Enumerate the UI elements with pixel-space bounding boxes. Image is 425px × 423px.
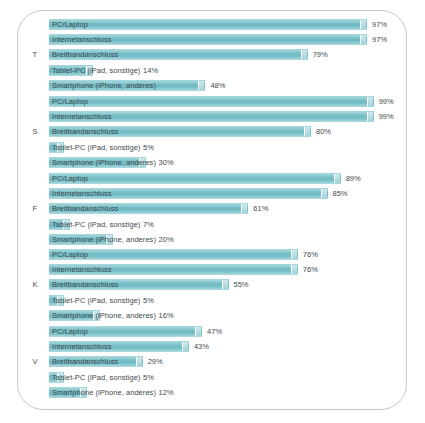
bar-value-label: 5% bbox=[143, 294, 154, 307]
bar-row: Smartphone (iPhone, anderes)12% bbox=[48, 386, 425, 399]
bar-category-label: Smartphone (iPhone, anderes) bbox=[52, 156, 156, 169]
bar-value-label: 61% bbox=[253, 202, 268, 215]
bar-category-label: Breitbandanschluss bbox=[52, 48, 118, 61]
bar-value-label: 79% bbox=[313, 48, 328, 61]
bar-value-label: 99% bbox=[379, 110, 394, 123]
bar-row: Tablet-PC (iPad, sonstige)5% bbox=[48, 294, 425, 307]
bar-value-label: 20% bbox=[159, 233, 174, 246]
bar-category-label: PC/Laptop bbox=[52, 172, 88, 185]
bar-end-cap bbox=[195, 327, 201, 336]
group-axis-label: S bbox=[28, 125, 42, 138]
bar-category-label: PC/Laptop bbox=[52, 248, 88, 261]
bar-row: Internetanschluss76% bbox=[48, 263, 425, 276]
group-axis-label: K bbox=[28, 278, 42, 291]
bar-category-label: Breitbandanschluss bbox=[52, 278, 118, 291]
bar-row: Smartphone (iPhone, anderes)48% bbox=[48, 79, 425, 92]
bar-category-label: Tablet-PC (iPad, sonstige) bbox=[52, 371, 140, 384]
bar-category-label: Internetanschluss bbox=[52, 33, 112, 46]
bar-value-label: 12% bbox=[159, 386, 174, 399]
bar-value-label: 76% bbox=[303, 263, 318, 276]
bar-category-label: PC/Laptop bbox=[52, 95, 88, 108]
bar-value-label: 43% bbox=[194, 340, 209, 353]
bar-value-label: 89% bbox=[346, 172, 361, 185]
bar-row: Internetanschluss85% bbox=[48, 187, 425, 200]
bar-row: Smartphone (iPhone, anderes)20% bbox=[48, 233, 425, 246]
bar-category-label: Internetanschluss bbox=[52, 110, 112, 123]
bar-value-label: 97% bbox=[372, 18, 387, 31]
bar-end-cap bbox=[334, 174, 340, 183]
bar-row: Tablet-PC (iPad, sonstige)5% bbox=[48, 141, 425, 154]
bar-value-label: 47% bbox=[207, 325, 222, 338]
bar-category-label: Breitbandanschluss bbox=[52, 202, 118, 215]
bar bbox=[48, 172, 342, 185]
bar-value-label: 80% bbox=[316, 125, 331, 138]
bar-row: Internetanschluss43% bbox=[48, 340, 425, 353]
bar-end-cap bbox=[241, 204, 247, 213]
bar-end-cap bbox=[291, 250, 297, 259]
bar-category-label: Tablet-PC (iPad, sonstige) bbox=[52, 141, 140, 154]
bar-category-label: Internetanschluss bbox=[52, 340, 112, 353]
bar-category-label: Internetanschluss bbox=[52, 263, 112, 276]
group-axis-label: F bbox=[28, 202, 42, 215]
bar-end-cap bbox=[198, 81, 204, 90]
bar-row: Breitbandanschluss80% bbox=[48, 125, 425, 138]
bar-row: Breitbandanschluss29% bbox=[48, 355, 425, 368]
bar-category-label: Smartphone (iPhone, anderes) bbox=[52, 386, 156, 399]
bar-value-label: 14% bbox=[143, 64, 158, 77]
bar-end-cap bbox=[136, 357, 142, 366]
bar-chart-plot-area: TPC/Laptop97%Internetanschluss97%Breitba… bbox=[0, 0, 425, 423]
bar-category-label: Tablet-PC (iPad, sonstige) bbox=[52, 294, 140, 307]
bar bbox=[48, 95, 375, 108]
bar-end-cap bbox=[301, 50, 307, 59]
bar-end-cap bbox=[182, 342, 188, 351]
bar-end-cap bbox=[321, 189, 327, 198]
bar-value-label: 5% bbox=[143, 141, 154, 154]
bar-category-label: Smartphone (iPhone, anderes) bbox=[52, 309, 156, 322]
bar-end-cap bbox=[367, 97, 373, 106]
bar-end-cap bbox=[291, 265, 297, 274]
bar-end-cap bbox=[304, 127, 310, 136]
bar bbox=[48, 18, 368, 31]
bar-category-label: Smartphone (iPhone, anderes) bbox=[52, 79, 156, 92]
bar-value-label: 5% bbox=[143, 371, 154, 384]
bar-value-label: 85% bbox=[333, 187, 348, 200]
bar-row: Breitbandanschluss61% bbox=[48, 202, 425, 215]
group-axis-label: T bbox=[28, 48, 42, 61]
bar-row: PC/Laptop76% bbox=[48, 248, 425, 261]
bar-value-label: 30% bbox=[159, 156, 174, 169]
bar-value-label: 76% bbox=[303, 248, 318, 261]
bar-row: Internetanschluss97% bbox=[48, 33, 425, 46]
bar-category-label: PC/Laptop bbox=[52, 18, 88, 31]
bar-value-label: 48% bbox=[210, 79, 225, 92]
bar-category-label: Breitbandanschluss bbox=[52, 355, 118, 368]
bar-row: Tablet-PC (iPad, sonstige)5% bbox=[48, 371, 425, 384]
bar-value-label: 29% bbox=[148, 355, 163, 368]
bar-value-label: 7% bbox=[143, 218, 154, 231]
bar-category-label: Tablet-PC (iPad, sonstige) bbox=[52, 64, 140, 77]
bar-row: Smartphone (iPhone, anderes)30% bbox=[48, 156, 425, 169]
bar-end-cap bbox=[367, 112, 373, 121]
bar-row: PC/Laptop47% bbox=[48, 325, 425, 338]
bar-category-label: PC/Laptop bbox=[52, 325, 88, 338]
bar-row: PC/Laptop97% bbox=[48, 18, 425, 31]
bar-end-cap bbox=[222, 280, 228, 289]
bar-end-cap bbox=[360, 35, 366, 44]
bar-row: Smartphone (iPhone, anderes)16% bbox=[48, 309, 425, 322]
bar-category-label: Smartphone (iPhone, anderes) bbox=[52, 233, 156, 246]
bar-category-label: Tablet-PC (iPad, sonstige) bbox=[52, 218, 140, 231]
bar-row: Internetanschluss99% bbox=[48, 110, 425, 123]
group-axis-label: V bbox=[28, 355, 42, 368]
bar-row: Breitbandanschluss55% bbox=[48, 278, 425, 291]
bar-row: PC/Laptop99% bbox=[48, 95, 425, 108]
bar-value-label: 55% bbox=[234, 278, 249, 291]
bar-row: Tablet-PC (iPad, sonstige)7% bbox=[48, 218, 425, 231]
bar-row: Breitbandanschluss79% bbox=[48, 48, 425, 61]
bar-value-label: 97% bbox=[372, 33, 387, 46]
bar-category-label: Breitbandanschluss bbox=[52, 125, 118, 138]
bar-category-label: Internetanschluss bbox=[52, 187, 112, 200]
bar-row: PC/Laptop89% bbox=[48, 172, 425, 185]
bar-value-label: 99% bbox=[379, 95, 394, 108]
bar-value-label: 16% bbox=[159, 309, 174, 322]
bar-end-cap bbox=[360, 20, 366, 29]
bar-row: Tablet-PC (iPad, sonstige)14% bbox=[48, 64, 425, 77]
